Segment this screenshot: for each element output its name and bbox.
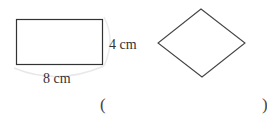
rectangle-height-label: 4 cm (109, 38, 137, 52)
answer-blank[interactable] (115, 98, 255, 116)
answer-open-paren: ( (100, 96, 106, 113)
rectangle-width-label: 8 cm (43, 72, 71, 86)
rhombus-shape (158, 9, 245, 77)
rectangle-shape (17, 20, 103, 65)
answer-close-paren: ) (262, 96, 267, 113)
